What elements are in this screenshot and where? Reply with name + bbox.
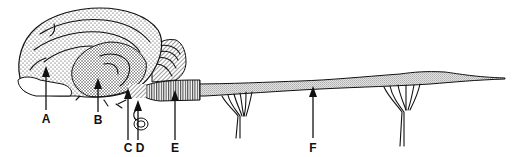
spinal-cord	[190, 72, 505, 96]
nerve-root-bundle-2	[384, 84, 420, 146]
label-D: D	[136, 141, 145, 155]
label-F-group: F	[309, 86, 317, 155]
label-B: B	[94, 113, 103, 127]
arrow-D-head	[134, 100, 142, 111]
label-C: C	[124, 141, 133, 155]
label-E-group: E	[171, 90, 179, 155]
nerve-root-bundle-1	[222, 92, 252, 138]
label-F: F	[309, 141, 316, 155]
label-E: E	[171, 141, 179, 155]
label-A: A	[42, 112, 51, 126]
pituitary-loop	[134, 110, 148, 130]
brain-spinal-cord-diagram: A B C D E F	[0, 0, 520, 157]
brainstem	[140, 80, 200, 101]
cranial-nerves	[76, 96, 126, 108]
label-C-group: C	[124, 88, 133, 155]
